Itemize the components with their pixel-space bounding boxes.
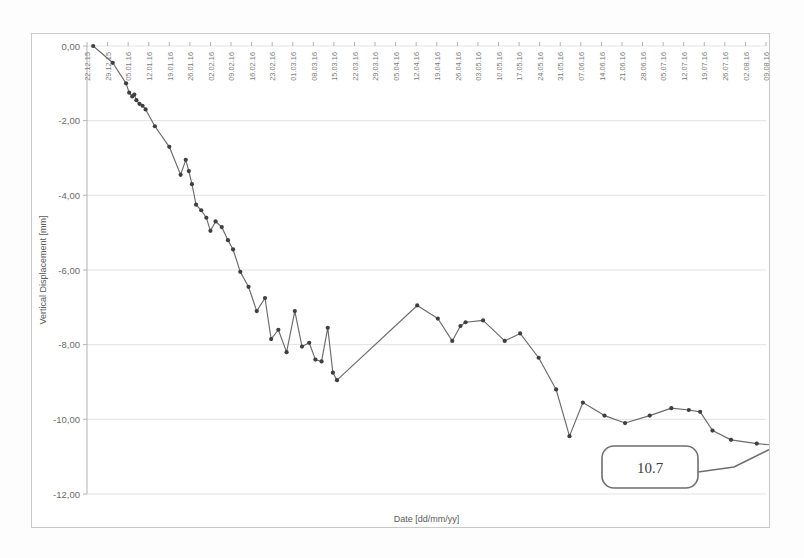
data-point-marker: [134, 98, 138, 102]
y-tick-label: -4,00: [58, 190, 80, 201]
x-tick-label: 23.02.16: [268, 52, 277, 81]
x-tick-label: 19.07.16: [700, 52, 709, 81]
data-point-marker: [91, 44, 95, 48]
data-point-marker: [307, 341, 311, 345]
data-point-marker: [132, 92, 136, 96]
y-tick-label: -8,00: [58, 339, 80, 350]
data-point-marker: [111, 61, 115, 65]
x-tick-label: 05.04.16: [392, 52, 401, 81]
data-point-marker: [140, 104, 144, 108]
data-point-marker: [554, 387, 558, 391]
data-point-marker: [269, 337, 273, 341]
data-point-marker: [450, 339, 454, 343]
x-tick-label: 03.05.16: [474, 52, 483, 81]
x-tick-label: 16.02.16: [248, 52, 257, 81]
data-point-marker: [199, 208, 203, 212]
y-tick-label: 0,00: [62, 41, 81, 52]
data-point-marker: [687, 408, 691, 412]
data-point-marker: [463, 320, 467, 324]
x-tick-label: 10.05.16: [495, 52, 504, 81]
data-point-marker: [326, 326, 330, 330]
y-tick-label: -6,00: [58, 265, 80, 276]
x-tick-label: 09.08.16: [762, 52, 769, 81]
data-point-marker: [567, 434, 571, 438]
data-point-marker: [602, 414, 606, 418]
data-point-marker: [518, 331, 522, 335]
y-tick-label: -12,00: [53, 489, 80, 500]
x-tick-label: 19.01.16: [166, 52, 175, 81]
data-point-marker: [184, 158, 188, 162]
x-tick-label: 17.05.16: [515, 52, 524, 81]
x-tick-label: 02.08.16: [742, 52, 751, 81]
data-point-marker: [167, 145, 171, 149]
data-point-marker: [458, 324, 462, 328]
data-point-marker: [503, 339, 507, 343]
x-tick-label: 26.04.16: [454, 52, 463, 81]
x-tick-label: 28.06.16: [639, 52, 648, 81]
x-tick-label: 15.03.16: [330, 52, 339, 81]
x-tick-label: 08.03.16: [310, 52, 319, 81]
data-point-marker: [669, 406, 673, 410]
x-tick-label: 29.03.16: [371, 52, 380, 81]
data-point-marker: [226, 238, 230, 242]
x-axis-title: Date [dd/mm/yy]: [394, 514, 460, 524]
data-point-marker: [331, 371, 335, 375]
x-tick-label: 26.01.16: [186, 52, 195, 81]
data-point-marker: [220, 225, 224, 229]
y-axis-title: Vertical Displacement [mm]: [38, 215, 48, 324]
x-tick-label: 12.07.16: [680, 52, 689, 81]
x-tick-label: 31.05.16: [556, 52, 565, 81]
x-tick-label: 22.12.15: [83, 52, 92, 81]
data-point-marker: [127, 91, 131, 95]
data-point-marker: [648, 414, 652, 418]
data-point-marker: [335, 378, 339, 382]
x-tick-label: 05.01.16: [124, 52, 133, 81]
data-point-marker: [481, 318, 485, 322]
displacement-line-chart: 0,00-2,00-4,00-6,00-8,00-10,00-12,0022.1…: [32, 34, 769, 527]
annotation-leader-line: [698, 445, 769, 472]
x-tick-label: 05.07.16: [659, 52, 668, 81]
data-point-marker: [194, 203, 198, 207]
data-point-marker: [255, 309, 259, 313]
y-tick-label: -10,00: [53, 414, 80, 425]
data-point-marker: [153, 124, 157, 128]
x-tick-label: 09.02.16: [227, 52, 236, 81]
y-tick-label: -2,00: [58, 115, 80, 126]
data-point-marker: [293, 309, 297, 313]
x-tick-label: 26.07.16: [721, 52, 730, 81]
data-point-marker: [537, 356, 541, 360]
data-point-marker: [231, 247, 235, 251]
x-tick-label: 07.06.16: [577, 52, 586, 81]
data-point-marker: [208, 229, 212, 233]
data-point-marker: [246, 285, 250, 289]
data-point-marker: [300, 344, 304, 348]
data-point-marker: [319, 359, 323, 363]
data-point-marker: [190, 182, 194, 186]
data-point-marker: [214, 219, 218, 223]
data-point-marker: [436, 316, 440, 320]
data-point-marker: [313, 358, 317, 362]
x-tick-label: 12.04.16: [412, 52, 421, 81]
data-point-marker: [623, 421, 627, 425]
x-tick-label: 01.03.16: [289, 52, 298, 81]
data-point-marker: [729, 438, 733, 442]
x-tick-label: 21.06.16: [618, 52, 627, 81]
data-point-marker: [187, 169, 191, 173]
data-point-marker: [581, 400, 585, 404]
data-point-marker: [755, 442, 759, 446]
data-point-marker: [698, 410, 702, 414]
data-point-marker: [144, 107, 148, 111]
screenshot-root: 0,00-2,00-4,00-6,00-8,00-10,00-12,0022.1…: [0, 0, 804, 558]
annotation-callout-label: 10.7: [637, 460, 664, 476]
data-point-marker: [710, 428, 714, 432]
series-line: [93, 46, 769, 445]
x-tick-label: 14.06.16: [598, 52, 607, 81]
data-point-marker: [179, 173, 183, 177]
x-tick-label: 19.04.16: [433, 52, 442, 81]
data-point-marker: [276, 328, 280, 332]
x-tick-label: 22.03.16: [351, 52, 360, 81]
x-tick-label: 24.05.16: [536, 52, 545, 81]
data-point-marker: [284, 350, 288, 354]
data-point-marker: [124, 81, 128, 85]
x-tick-label: 02.02.16: [207, 52, 216, 81]
